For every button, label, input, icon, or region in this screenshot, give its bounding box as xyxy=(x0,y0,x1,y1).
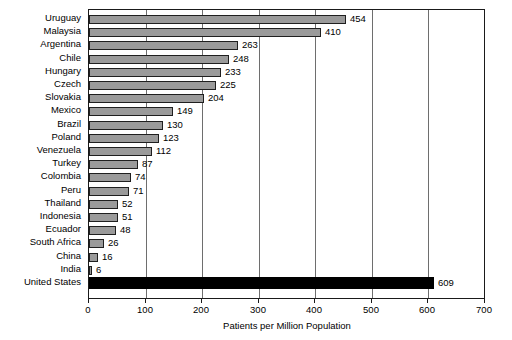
category-label-south-africa: South Africa xyxy=(30,237,81,247)
category-label-uruguay: Uruguay xyxy=(45,13,81,23)
bar-value-label: 609 xyxy=(438,278,454,288)
bar-indonesia xyxy=(89,213,118,222)
bar-row: 48 xyxy=(89,224,486,237)
x-tick-0 xyxy=(88,299,89,303)
category-label-brazil: Brazil xyxy=(57,119,81,129)
bar-united-states xyxy=(89,277,434,289)
bar-value-label: 48 xyxy=(120,225,131,235)
bar-value-label: 71 xyxy=(133,186,144,196)
x-axis-title: Patients per Million Population xyxy=(88,320,486,331)
x-tick-600 xyxy=(427,299,428,303)
bar-chile xyxy=(89,55,229,64)
x-tick-label-600: 600 xyxy=(419,304,435,315)
bar-row: 51 xyxy=(89,211,486,224)
bar-turkey xyxy=(89,160,138,169)
category-label-argentina: Argentina xyxy=(40,39,81,49)
x-axis: 0100200300400500600700 xyxy=(88,299,486,319)
x-tick-200 xyxy=(201,299,202,303)
bar-value-label: 149 xyxy=(177,106,193,116)
bar-row: 149 xyxy=(89,105,486,118)
bar-value-label: 410 xyxy=(325,27,341,37)
bar-mexico xyxy=(89,107,173,116)
category-label-turkey: Turkey xyxy=(52,158,81,168)
bar-slovakia xyxy=(89,94,204,103)
bar-venezuela xyxy=(89,147,152,156)
bar-poland xyxy=(89,134,159,143)
bar-ecuador xyxy=(89,226,116,235)
bar-value-label: 112 xyxy=(156,146,171,156)
bar-value-label: 248 xyxy=(233,54,249,64)
x-tick-400 xyxy=(314,299,315,303)
bar-value-label: 52 xyxy=(122,199,133,209)
x-tick-500 xyxy=(371,299,372,303)
bar-value-label: 87 xyxy=(142,159,153,169)
bar-row: 233 xyxy=(89,66,486,79)
bar-row: 454 xyxy=(89,13,486,26)
bar-value-label: 263 xyxy=(242,40,258,50)
bar-brazil xyxy=(89,121,163,130)
bar-thailand xyxy=(89,200,118,209)
bar-row: 6 xyxy=(89,264,486,277)
bar-row: 16 xyxy=(89,251,486,264)
bar-value-label: 454 xyxy=(350,14,366,24)
category-axis: UruguayMalaysiaArgentinaChileHungaryCzec… xyxy=(0,9,85,300)
bar-row: 123 xyxy=(89,132,486,145)
bar-row: 130 xyxy=(89,119,486,132)
bar-value-label: 6 xyxy=(96,265,101,275)
x-tick-label-100: 100 xyxy=(137,304,153,315)
category-label-thailand: Thailand xyxy=(45,198,81,208)
category-label-colombia: Colombia xyxy=(41,171,81,181)
x-tick-label-300: 300 xyxy=(250,304,266,315)
bar-czech xyxy=(89,81,216,90)
bar-hungary xyxy=(89,68,221,77)
x-tick-label-0: 0 xyxy=(85,304,90,315)
category-label-slovakia: Slovakia xyxy=(45,92,81,102)
bar-row: 71 xyxy=(89,185,486,198)
category-label-united-states: United States xyxy=(24,277,81,287)
bar-value-label: 123 xyxy=(163,133,179,143)
category-label-china: China xyxy=(56,251,81,261)
x-tick-label-700: 700 xyxy=(476,304,492,315)
bar-value-label: 74 xyxy=(135,172,146,182)
category-label-ecuador: Ecuador xyxy=(46,224,81,234)
bar-value-label: 51 xyxy=(122,212,133,222)
bar-value-label: 233 xyxy=(225,67,241,77)
x-tick-300 xyxy=(258,299,259,303)
category-label-chile: Chile xyxy=(59,53,81,63)
x-tick-label-400: 400 xyxy=(306,304,322,315)
bar-row: 204 xyxy=(89,92,486,105)
bar-value-label: 225 xyxy=(220,80,236,90)
bar-value-label: 16 xyxy=(102,252,113,262)
category-label-peru: Peru xyxy=(61,185,81,195)
bar-row: 263 xyxy=(89,39,486,52)
bar-value-label: 204 xyxy=(208,93,224,103)
bar-row: 112 xyxy=(89,145,486,158)
x-tick-label-500: 500 xyxy=(363,304,379,315)
bar-row: 225 xyxy=(89,79,486,92)
bar-china xyxy=(89,253,98,262)
bar-malaysia xyxy=(89,28,321,37)
bar-row: 410 xyxy=(89,26,486,39)
category-label-indonesia: Indonesia xyxy=(40,211,81,221)
plot-area: 4544102632482332252041491301231128774715… xyxy=(88,9,485,299)
bar-value-label: 130 xyxy=(167,120,183,130)
x-tick-700 xyxy=(484,299,485,303)
bar-south-africa xyxy=(89,239,104,248)
x-tick-label-200: 200 xyxy=(193,304,209,315)
category-label-czech: Czech xyxy=(54,79,81,89)
bar-chart-figure: UruguayMalaysiaArgentinaChileHungaryCzec… xyxy=(0,0,512,340)
category-label-poland: Poland xyxy=(51,132,81,142)
bar-row: 87 xyxy=(89,158,486,171)
bar-row: 609 xyxy=(89,277,486,290)
category-label-venezuela: Venezuela xyxy=(37,145,81,155)
bar-india xyxy=(89,266,92,275)
bar-peru xyxy=(89,187,129,196)
bar-row: 26 xyxy=(89,237,486,250)
category-label-india: India xyxy=(60,264,81,274)
bar-row: 74 xyxy=(89,171,486,184)
bar-uruguay xyxy=(89,15,346,24)
bar-colombia xyxy=(89,173,131,182)
category-label-hungary: Hungary xyxy=(45,66,81,76)
category-label-mexico: Mexico xyxy=(51,105,81,115)
x-tick-100 xyxy=(145,299,146,303)
